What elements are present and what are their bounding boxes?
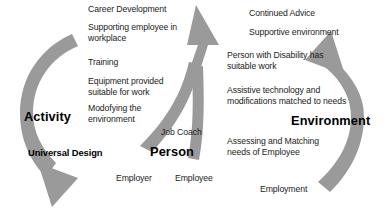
employment-cycle-diagram: Career Development Supporting employee i…	[0, 0, 389, 223]
environment-item-assessing-matching-line1: Assessing and Matching	[227, 136, 319, 147]
environment-footer-employment: Employment	[260, 184, 307, 195]
environment-item-supportive-environment: Supportive environment	[249, 27, 339, 38]
environment-item-assistive-tech-line1: Assistive technology and	[227, 85, 320, 96]
pillar-label-person: Person	[150, 144, 194, 160]
person-item-job-coach: Job Coach	[161, 127, 202, 138]
environment-item-person-disability-line2: suitable work	[227, 61, 276, 72]
activity-item-career-development: Career Development	[88, 4, 166, 15]
activity-item-equipment-line2: suitable for work	[88, 87, 150, 98]
activity-item-supporting-employee-line2: workplace	[88, 33, 126, 44]
activity-item-modifying-line2: environment	[88, 114, 135, 125]
environment-item-continued-advice: Continued Advice	[249, 8, 315, 19]
person-item-employee: Employee	[175, 173, 213, 184]
activity-arrowhead	[38, 163, 78, 207]
activity-item-supporting-employee-line1: Supporting employee in	[88, 22, 177, 33]
activity-item-equipment-line1: Equipment provided	[88, 76, 163, 87]
environment-item-assessing-matching-line2: needs of Employee	[227, 147, 300, 158]
activity-item-training: Training	[88, 57, 118, 68]
pillar-label-activity: Activity	[24, 109, 71, 125]
activity-footer-universal-design: Universal Design	[28, 147, 102, 158]
environment-item-person-disability-line1: Person with Disability has	[227, 50, 323, 61]
activity-item-modifying-line1: Modofying the	[88, 103, 141, 114]
environment-item-assistive-tech-line2: modifications matched to needs	[227, 96, 346, 107]
person-item-employer: Employer	[116, 173, 152, 184]
pillar-label-environment: Environment	[291, 113, 370, 129]
